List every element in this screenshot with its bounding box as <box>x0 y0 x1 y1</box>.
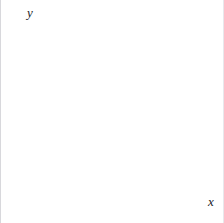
plot-svg: x y <box>1 0 224 223</box>
y-axis-label: y <box>25 5 33 20</box>
x-axis-label: x <box>207 194 214 209</box>
coordinate-plane: x y <box>0 0 224 223</box>
